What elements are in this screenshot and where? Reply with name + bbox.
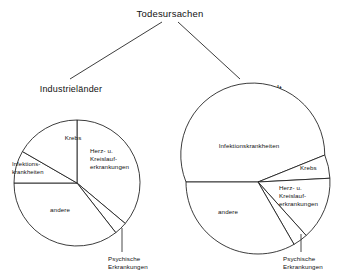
- slice-label-andere: andere: [50, 206, 70, 213]
- slice-label-herz-l1: Herz- u.: [90, 147, 113, 154]
- slice-label-andere: andere: [218, 208, 238, 215]
- figure-root: Todesursachen Industrieländer Dritte Wel…: [0, 0, 340, 276]
- todesursachen-figure: Todesursachen Industrieländer Dritte Wel…: [0, 0, 340, 276]
- slice-label-krebs: Krebs: [300, 164, 317, 171]
- slice-label-psych-l2: Erkrankungen: [283, 263, 323, 270]
- slice-label-infekt-l1: Infektions-: [12, 161, 40, 167]
- slice-label-herz-l3: erkrankungen: [90, 163, 129, 170]
- slice-label-herz-l3: erkrankungen: [279, 200, 318, 207]
- tree-branch-right: [178, 22, 240, 79]
- slice-label-psych-l2: Erkrankungen: [108, 263, 148, 270]
- tree-branch-left: [70, 22, 162, 79]
- pie-chart-dritte-welt: Infektionskrankheiten Krebs Herz- u. Kre…: [181, 83, 330, 270]
- slice-label-infekt-l2: krankheiten: [12, 169, 44, 175]
- slice-label-psych-l1: Psychische: [283, 255, 316, 262]
- slice-label-psych-l1: Psychische: [108, 255, 141, 262]
- branch-label-industrielaender: Industrieländer: [40, 84, 103, 94]
- slice-label-krebs: Krebs: [65, 134, 82, 141]
- slice-label-infektionskrankheiten: Infektionskrankheiten: [219, 142, 280, 149]
- slice-label-herz-l2: Kreislauf-: [279, 192, 306, 199]
- diagram-title: Todesursachen: [136, 8, 203, 19]
- slice-label-herz-l2: Kreislauf-: [90, 155, 117, 162]
- slice-label-herz-l1: Herz- u.: [279, 184, 302, 191]
- pie-chart-industrielaender: Krebs Herz- u. Kreislauf- erkrankungen I…: [12, 120, 148, 270]
